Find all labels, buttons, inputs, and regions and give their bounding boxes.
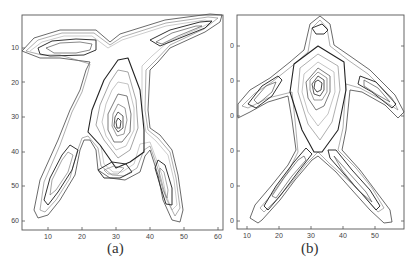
plot-b-contours xyxy=(238,16,404,223)
plot-b-tick-labels: 1020 3040 50 1020 3040 5060 xyxy=(230,42,379,239)
plot-a-contours xyxy=(22,14,222,222)
contour-plot-a-svg: 1020 3040 5060 1020 3040 5060 xyxy=(0,0,230,269)
svg-text:60: 60 xyxy=(230,217,234,224)
svg-text:60: 60 xyxy=(11,217,19,224)
svg-text:30: 30 xyxy=(11,113,19,120)
svg-text:40: 40 xyxy=(146,233,154,240)
plot-a-ticks xyxy=(22,48,218,230)
svg-text:50: 50 xyxy=(230,182,234,189)
svg-text:40: 40 xyxy=(11,148,19,155)
svg-text:20: 20 xyxy=(11,79,19,86)
contour-plot-b: 1020 3040 50 1020 3040 5060 xyxy=(230,0,417,269)
svg-text:10: 10 xyxy=(230,42,234,49)
svg-text:20: 20 xyxy=(78,233,86,240)
contour-plot-b-svg: 1020 3040 50 1020 3040 5060 xyxy=(230,0,417,269)
caption-a: (a) xyxy=(107,240,124,257)
svg-text:30: 30 xyxy=(230,112,234,119)
svg-text:50: 50 xyxy=(11,182,19,189)
svg-text:40: 40 xyxy=(339,232,347,239)
svg-text:30: 30 xyxy=(112,233,120,240)
svg-text:10: 10 xyxy=(243,232,251,239)
svg-text:10: 10 xyxy=(11,44,19,51)
svg-text:40: 40 xyxy=(230,147,234,154)
svg-text:20: 20 xyxy=(275,232,283,239)
svg-text:20: 20 xyxy=(230,77,234,84)
svg-text:60: 60 xyxy=(214,233,222,240)
plot-a-frame xyxy=(22,15,223,230)
svg-text:30: 30 xyxy=(307,232,315,239)
contour-plot-a: 1020 3040 5060 1020 3040 5060 xyxy=(0,0,230,269)
svg-text:50: 50 xyxy=(180,233,188,240)
svg-text:10: 10 xyxy=(44,233,52,240)
svg-text:50: 50 xyxy=(371,232,379,239)
caption-b: (b) xyxy=(301,240,319,257)
